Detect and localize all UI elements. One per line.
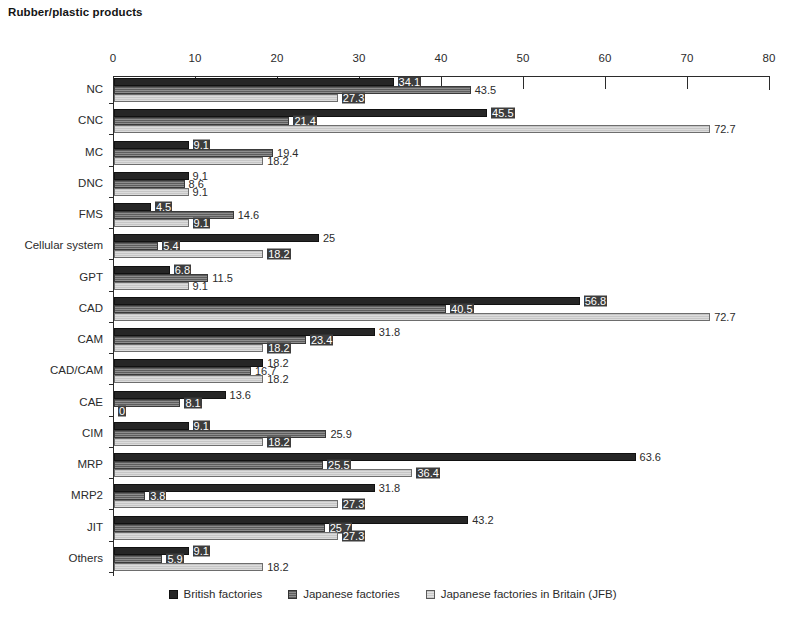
- bar-row: 8.1: [114, 399, 771, 407]
- bar-group: CAM31.823.418.2: [114, 328, 770, 352]
- bar-row: 11.5: [114, 274, 771, 282]
- bar[interactable]: [114, 461, 323, 469]
- bar-row: 18.2: [114, 438, 771, 446]
- bar-row: 27.3: [114, 500, 771, 508]
- bar-value-label: 18.2: [267, 343, 290, 354]
- bar[interactable]: [114, 125, 710, 133]
- bar-value-label: 18.2: [267, 374, 288, 385]
- bar[interactable]: [114, 438, 263, 446]
- bar[interactable]: [114, 305, 446, 313]
- bar[interactable]: [114, 188, 189, 196]
- bar[interactable]: [114, 555, 162, 563]
- bar-row: 9.1: [114, 219, 771, 227]
- bar-group: DNC9.18.69.1: [114, 172, 770, 196]
- legend-swatch-icon: [288, 590, 297, 599]
- bar[interactable]: [114, 211, 234, 219]
- bar-row: 9.1: [114, 172, 771, 180]
- y-axis-tick-mark: [109, 291, 114, 292]
- bar-row: 31.8: [114, 484, 771, 492]
- bar[interactable]: [114, 78, 394, 86]
- bar-group: GPT6.811.59.1: [114, 266, 770, 290]
- legend-swatch-icon: [169, 590, 178, 599]
- bar-value-label: 72.7: [714, 311, 735, 322]
- bar-value-label: 0: [118, 405, 126, 416]
- bar[interactable]: [114, 524, 325, 532]
- legend-item[interactable]: Japanese factories: [288, 588, 400, 600]
- bar-row: 40.5: [114, 305, 771, 313]
- bar[interactable]: [114, 282, 189, 290]
- bar-row: 18.2: [114, 250, 771, 258]
- bar[interactable]: [114, 328, 375, 336]
- bar[interactable]: [114, 313, 710, 321]
- bar-row: 45.5: [114, 109, 771, 117]
- bar[interactable]: [114, 94, 338, 102]
- bar-row: 25.7: [114, 524, 771, 532]
- y-axis-tick-mark: [109, 103, 114, 104]
- bar[interactable]: [114, 469, 412, 477]
- bar[interactable]: [114, 367, 251, 375]
- bar[interactable]: [114, 516, 468, 524]
- bar[interactable]: [114, 219, 189, 227]
- bar-row: 5.9: [114, 555, 771, 563]
- bar-row: 72.7: [114, 125, 771, 133]
- bar[interactable]: [114, 453, 636, 461]
- bar-row: 18.2: [114, 359, 771, 367]
- y-axis-tick-mark: [109, 541, 114, 542]
- bar-row: 3.8: [114, 492, 771, 500]
- y-axis-tick-mark: [109, 166, 114, 167]
- y-axis-tick-mark: [109, 259, 114, 260]
- chart-legend: British factoriesJapanese factoriesJapan…: [0, 588, 785, 600]
- y-axis-tick-mark: [109, 134, 114, 135]
- bar-row: 23.4: [114, 336, 771, 344]
- bar-row: 9.1: [114, 282, 771, 290]
- bar[interactable]: [114, 266, 170, 274]
- bar[interactable]: [114, 422, 189, 430]
- bar[interactable]: [114, 117, 289, 125]
- bar[interactable]: [114, 234, 319, 242]
- bar[interactable]: [114, 500, 338, 508]
- x-axis-tick-label: 10: [189, 52, 202, 64]
- bar[interactable]: [114, 532, 338, 540]
- bar[interactable]: [114, 391, 226, 399]
- bar-group: CIM9.125.918.2: [114, 422, 770, 446]
- bar[interactable]: [114, 430, 326, 438]
- bar[interactable]: [114, 250, 263, 258]
- legend-swatch-icon: [426, 590, 435, 599]
- y-axis-tick-mark: [109, 384, 114, 385]
- bar[interactable]: [114, 492, 145, 500]
- category-label: FMS: [79, 209, 103, 221]
- bar[interactable]: [114, 297, 580, 305]
- bar-row: 13.6: [114, 391, 771, 399]
- bar-row: 0: [114, 407, 771, 415]
- bar[interactable]: [114, 203, 151, 211]
- bar-group: CNC45.521.472.7: [114, 109, 770, 133]
- bar[interactable]: [114, 242, 158, 250]
- bar[interactable]: [114, 359, 263, 367]
- category-label: MC: [85, 147, 103, 159]
- bar[interactable]: [114, 375, 263, 383]
- bar[interactable]: [114, 180, 185, 188]
- bar-row: 14.6: [114, 211, 771, 219]
- bar-value-label: 27.3: [342, 499, 365, 510]
- bar[interactable]: [114, 344, 263, 352]
- legend-label: Japanese factories: [303, 588, 400, 600]
- y-axis-tick-mark: [109, 353, 114, 354]
- category-label: NC: [86, 84, 103, 96]
- bar-group: CAD56.840.572.7: [114, 297, 770, 321]
- bar[interactable]: [114, 141, 189, 149]
- bar-value-label: 9.1: [193, 218, 210, 229]
- bar-group: NC34.143.527.3: [114, 78, 770, 102]
- y-axis-tick-mark: [109, 478, 114, 479]
- bar-value-label: 18.2: [267, 436, 290, 447]
- legend-item[interactable]: Japanese factories in Britain (JFB): [426, 588, 617, 600]
- bar[interactable]: [114, 86, 471, 94]
- bar-row: 18.2: [114, 563, 771, 571]
- bar-row: 25: [114, 234, 771, 242]
- bar[interactable]: [114, 563, 263, 571]
- bar[interactable]: [114, 149, 273, 157]
- bar[interactable]: [114, 157, 263, 165]
- bar[interactable]: [114, 172, 189, 180]
- bar-group: MC9.119.418.2: [114, 141, 770, 165]
- legend-item[interactable]: British factories: [169, 588, 263, 600]
- bar-value-label: 18.2: [267, 561, 288, 572]
